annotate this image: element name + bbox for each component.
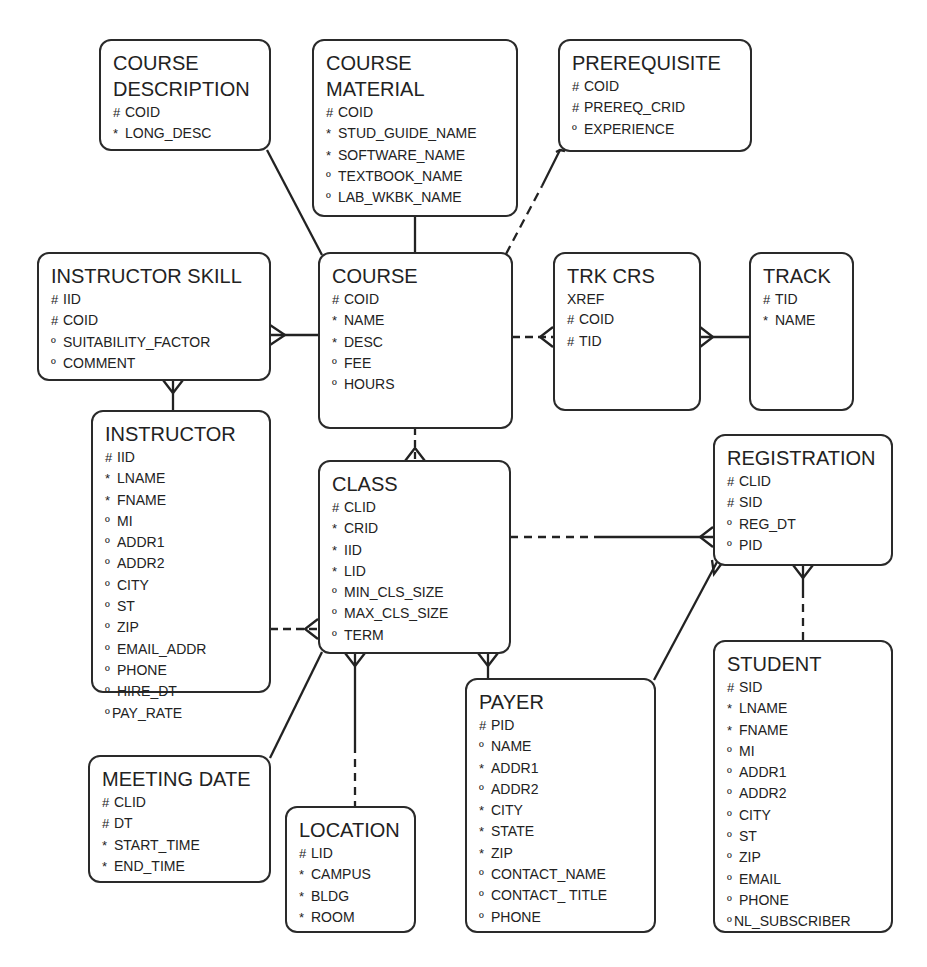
entity-instructor: INSTRUCTOR #IID *LNAME *FNAME ºMI ºADDR1…	[91, 410, 271, 693]
attribute: ºNL_SUBSCRIBER	[727, 911, 891, 932]
attribute: ºMI	[105, 511, 269, 532]
attribute: *LONG_DESC	[113, 123, 269, 144]
attribute: ºEMAIL_ADDR	[105, 639, 269, 660]
attribute: ºPHONE	[479, 907, 654, 928]
attribute: #COID	[51, 310, 269, 331]
rel-registration-payer	[654, 562, 717, 680]
attribute-list: #TID *NAME	[763, 289, 852, 332]
attribute: #SID	[727, 492, 891, 513]
attribute: *NAME	[332, 310, 511, 331]
attribute: ºSUITABILITY_FACTOR	[51, 332, 269, 353]
entity-instructor-skill: INSTRUCTOR SKILL #IID #COID ºSUITABILITY…	[37, 252, 271, 381]
attribute: *CRID	[332, 518, 509, 539]
rel-class-meetingdate	[270, 652, 322, 758]
attribute: ºADDR1	[727, 762, 891, 783]
entity-title: PAYER	[479, 689, 654, 715]
attribute: ºMI	[727, 741, 891, 762]
attribute: *NAME	[763, 310, 852, 331]
entity-title: COURSE MATERIAL	[326, 50, 516, 102]
entity-title: LOCATION	[299, 817, 414, 843]
attribute-list: XREF #COID #TID	[567, 289, 699, 352]
attribute: #CLID	[332, 497, 509, 518]
attribute: ºZIP	[727, 847, 891, 868]
attribute: #COID	[332, 289, 511, 310]
attribute: ºST	[727, 826, 891, 847]
attribute-list: #PID ºNAME *ADDR1 ºADDR2 *CITY *STATE *Z…	[479, 715, 654, 928]
attribute: ºMIN_CLS_SIZE	[332, 582, 509, 603]
entity-title: INSTRUCTOR SKILL	[51, 263, 269, 289]
attribute: ºNAME	[479, 736, 654, 757]
entity-student: STUDENT #SID *LNAME *FNAME ºMI ºADDR1 ºA…	[713, 640, 893, 933]
attribute: *IID	[332, 540, 509, 561]
attribute: *DESC	[332, 332, 511, 353]
er-diagram: COURSE DESCRIPTION #COID *LONG_DESC COUR…	[0, 0, 927, 967]
entity-meeting-date: MEETING DATE #CLID #DT *START_TIME *END_…	[88, 755, 271, 883]
attribute-list: #CLID *CRID *IID *LID ºMIN_CLS_SIZE ºMAX…	[332, 497, 509, 646]
attribute: *END_TIME	[102, 856, 269, 877]
attribute: ºFEE	[332, 353, 511, 374]
attribute: *FNAME	[105, 490, 269, 511]
attribute-list: #LID *CAMPUS *BLDG *ROOM	[299, 843, 414, 928]
attribute: ºEMAIL	[727, 869, 891, 890]
attribute: ºEXPERIENCE	[572, 119, 750, 140]
entity-title: PREREQUISITE	[572, 50, 750, 76]
attribute: ºMAX_CLS_SIZE	[332, 603, 509, 624]
entity-class: CLASS #CLID *CRID *IID *LID ºMIN_CLS_SIZ…	[318, 460, 511, 654]
entity-title: STUDENT	[727, 651, 891, 677]
attribute: #COID	[113, 102, 269, 123]
entity-track: TRACK #TID *NAME	[749, 252, 854, 411]
entity-prerequisite: PREREQUISITE #COID #PREREQ_CRID ºEXPERIE…	[558, 39, 752, 152]
attribute-list: #IID #COID ºSUITABILITY_FACTOR ºCOMMENT	[51, 289, 269, 374]
attribute: *LNAME	[727, 698, 891, 719]
entity-title: COURSE DESCRIPTION	[113, 50, 269, 102]
attribute: XREF	[567, 289, 699, 309]
attribute: ºHOURS	[332, 374, 511, 395]
entity-title: COURSE	[332, 263, 511, 289]
attribute: #CLID	[102, 792, 269, 813]
attribute: ºTERM	[332, 625, 509, 646]
entity-title: CLASS	[332, 471, 509, 497]
entity-registration: REGISTRATION #CLID #SID ºREG_DT ºPID	[713, 434, 893, 566]
attribute-list: #CLID #DT *START_TIME *END_TIME	[102, 792, 269, 877]
attribute: *CAMPUS	[299, 864, 414, 885]
attribute: *LID	[332, 561, 509, 582]
attribute: ºZIP	[105, 617, 269, 638]
entity-title: INSTRUCTOR	[105, 421, 269, 447]
attribute: #CLID	[727, 471, 891, 492]
attribute: *START_TIME	[102, 835, 269, 856]
attribute: *LNAME	[105, 468, 269, 489]
entity-title: REGISTRATION	[727, 445, 891, 471]
entity-trk-crs-xref: TRK CRS XREF #COID #TID	[553, 252, 701, 411]
attribute: *BLDG	[299, 886, 414, 907]
attribute: *ZIP	[479, 843, 654, 864]
entity-course-description: COURSE DESCRIPTION #COID *LONG_DESC	[99, 39, 271, 151]
attribute-list: #COID *NAME *DESC ºFEE ºHOURS	[332, 289, 511, 395]
attribute: ºCONTACT_NAME	[479, 864, 654, 885]
attribute: *FNAME	[727, 720, 891, 741]
attribute: ºCOMMENT	[51, 353, 269, 374]
attribute: #PREREQ_CRID	[572, 97, 750, 118]
attribute: ºREG_DT	[727, 514, 891, 535]
attribute-list: #IID *LNAME *FNAME ºMI ºADDR1 ºADDR2 ºCI…	[105, 447, 269, 724]
attribute: *STATE	[479, 821, 654, 842]
attribute: #COID	[572, 76, 750, 97]
attribute-list: #SID *LNAME *FNAME ºMI ºADDR1 ºADDR2 ºCI…	[727, 677, 891, 933]
attribute: ºPHONE	[727, 890, 891, 911]
attribute: #PID	[479, 715, 654, 736]
attribute: ºST	[105, 596, 269, 617]
attribute: ºCONTACT_ TITLE	[479, 885, 654, 906]
attribute: ºPID	[727, 535, 891, 556]
attribute: #COID	[567, 309, 699, 330]
attribute: #DT	[102, 813, 269, 834]
attribute: ºADDR1	[105, 532, 269, 553]
entity-title: MEETING DATE	[102, 766, 269, 792]
attribute: #TID	[567, 331, 699, 352]
attribute-list: #COID *LONG_DESC	[113, 102, 269, 145]
attribute: #IID	[51, 289, 269, 310]
attribute: ºPAY_RATE	[105, 703, 269, 724]
attribute: ºADDR2	[727, 783, 891, 804]
attribute: #COID	[326, 102, 516, 123]
attribute: ºLAB_WKBK_NAME	[326, 187, 516, 208]
attribute: ºADDR2	[479, 779, 654, 800]
attribute-list: #CLID #SID ºREG_DT ºPID	[727, 471, 891, 556]
